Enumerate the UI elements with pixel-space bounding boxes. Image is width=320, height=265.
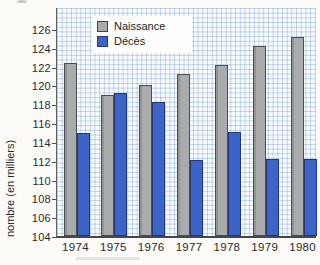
bar-deces-1980 xyxy=(304,159,317,236)
y-tick-122 xyxy=(52,68,56,69)
scanned-chart-figure: nombre (en milliers) 1261241221201181161… xyxy=(0,0,320,265)
y-tick-label-110: 110 xyxy=(20,175,51,187)
y-tick-label-114: 114 xyxy=(20,137,51,149)
y-tick-120 xyxy=(52,86,56,87)
y-tick-label-120: 120 xyxy=(20,80,51,92)
y-tick-112 xyxy=(52,162,56,163)
bar-naissance-1975 xyxy=(101,95,114,236)
bar-deces-1976 xyxy=(152,102,165,236)
bar-naissance-1974 xyxy=(64,63,77,236)
y-tick-124 xyxy=(52,49,56,50)
y-tick-116 xyxy=(52,124,56,125)
legend-label-deces: Décès xyxy=(114,35,145,48)
y-tick-label-118: 118 xyxy=(20,99,51,111)
y-tick-label-106: 106 xyxy=(20,212,51,224)
x-tick-label-1979: 1979 xyxy=(247,241,283,253)
y-tick-108 xyxy=(52,199,56,200)
y-tick-label-116: 116 xyxy=(20,118,51,130)
y-tick-104 xyxy=(52,237,56,238)
scan-artifact-top xyxy=(17,0,27,3)
y-tick-106 xyxy=(52,218,56,219)
legend-swatch-deces xyxy=(97,36,108,47)
y-tick-118 xyxy=(52,105,56,106)
y-tick-label-112: 112 xyxy=(20,156,51,168)
y-axis-title: nombre (en milliers) xyxy=(4,99,17,265)
bar-deces-1974 xyxy=(77,133,90,237)
bar-naissance-1977 xyxy=(177,74,190,236)
bar-deces-1979 xyxy=(266,159,279,236)
x-tick-label-1975: 1975 xyxy=(95,241,131,253)
bar-deces-1975 xyxy=(114,93,127,236)
legend-item-naissance: Naissance xyxy=(97,19,186,34)
bar-deces-1978 xyxy=(228,132,241,236)
legend-label-naissance: Naissance xyxy=(114,20,165,33)
x-tick-label-1980: 1980 xyxy=(285,241,320,253)
y-tick-label-108: 108 xyxy=(20,193,51,205)
y-tick-label-104: 104 xyxy=(20,231,51,243)
bar-naissance-1980 xyxy=(291,37,304,237)
bar-deces-1977 xyxy=(190,160,203,236)
legend-item-deces: Décès xyxy=(97,34,186,49)
y-tick-label-124: 124 xyxy=(20,43,51,55)
y-tick-110 xyxy=(52,181,56,182)
x-tick-label-1974: 1974 xyxy=(58,241,94,253)
legend: Naissance Décès xyxy=(92,16,192,53)
scan-artifact-bottom xyxy=(75,257,140,260)
bar-naissance-1978 xyxy=(215,65,228,236)
legend-swatch-naissance xyxy=(97,21,108,32)
x-tick-label-1977: 1977 xyxy=(171,241,207,253)
y-tick-126 xyxy=(52,30,56,31)
y-tick-label-126: 126 xyxy=(20,24,51,36)
bar-naissance-1979 xyxy=(253,46,266,236)
y-tick-label-122: 122 xyxy=(20,62,51,74)
bar-naissance-1976 xyxy=(139,85,152,237)
x-tick-label-1976: 1976 xyxy=(133,241,169,253)
x-tick-label-1978: 1978 xyxy=(209,241,245,253)
y-tick-114 xyxy=(52,143,56,144)
